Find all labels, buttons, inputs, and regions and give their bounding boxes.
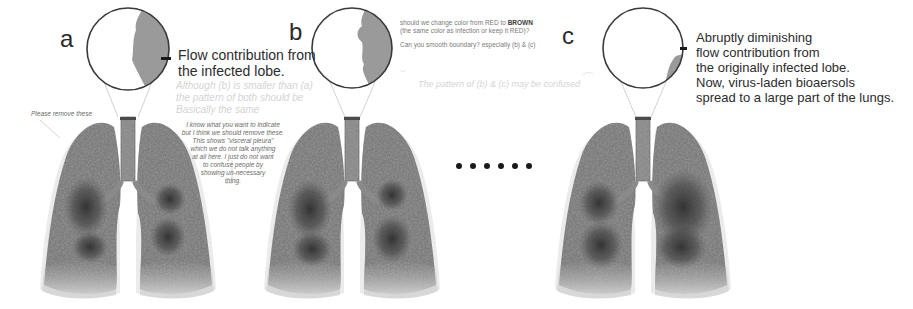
faint-review-comment-a: Although (b) is smaller than (a) the pat… <box>176 80 313 116</box>
faint-review-comment-b: The pattern of (b) & (c) may be confused <box>418 78 580 90</box>
caption-line: Flow contribution from <box>178 47 316 63</box>
caption-line: the originally infected lobe. <box>696 60 894 75</box>
caption-line: flow contribution from <box>696 45 894 60</box>
note-line: which we do not talk anything <box>178 145 288 153</box>
note-line: to confuse people by <box>178 161 288 169</box>
pointer-marker <box>161 57 171 60</box>
review-note-right: I know what you want to indicate but I t… <box>178 121 288 185</box>
note-line: Can you smooth boundary? especially (b) … <box>400 41 535 49</box>
dot <box>456 163 462 169</box>
lung-illustration <box>264 117 440 298</box>
review-note-b: should we change color from RED to BROWN… <box>400 19 535 49</box>
review-note-left: Please remove these <box>31 110 92 118</box>
note-text: should we change color from RED to <box>400 19 508 26</box>
caption-line: the infected lobe. <box>178 63 316 79</box>
comment-line: the pattern of both should be <box>176 92 313 104</box>
dot <box>470 163 476 169</box>
pointer-marker <box>680 47 687 50</box>
note-line: should we change color from RED to BROWN <box>400 19 535 27</box>
note-emphasis: BROWN <box>508 19 533 26</box>
note-line: but I think we should remove these. <box>178 129 288 137</box>
caption-c: Abruptly diminishing flow contribution f… <box>696 30 894 105</box>
comment-line: Although (b) is smaller than (a) <box>176 80 313 92</box>
panel-label-a: a <box>60 27 73 51</box>
caption-line: Now, virus-laden bioaersols <box>696 75 894 90</box>
comment-line: Basically the same <box>176 104 313 116</box>
caption-a: Flow contribution from the infected lobe… <box>178 47 316 79</box>
magnified-view-circle <box>87 5 175 92</box>
note-line: This shows "visceral pleura" <box>178 137 288 145</box>
magnified-view-circle <box>603 8 690 88</box>
review-arrow <box>40 120 60 138</box>
panel-label-c: c <box>562 24 574 48</box>
review-mark <box>582 73 594 75</box>
caption-line: Abruptly diminishing <box>696 30 894 45</box>
caption-line: spread to a large part of the lungs. <box>696 90 894 105</box>
dot <box>498 163 504 169</box>
magnified-view-circle <box>312 5 400 92</box>
note-line: thing. <box>178 177 288 185</box>
note-line: at all here. I just do not want <box>178 153 288 161</box>
note-line: I know what you want to indicate <box>178 121 288 129</box>
note-line: (the same color as infection or keep it … <box>400 27 535 35</box>
panel-label-b: b <box>289 20 302 44</box>
dot <box>512 163 518 169</box>
lung-illustration <box>555 117 731 298</box>
ellipsis-dots <box>456 163 532 169</box>
review-mark <box>400 70 406 72</box>
dot <box>526 163 532 169</box>
dot <box>484 163 490 169</box>
note-line: showing un-necessary <box>178 169 288 177</box>
